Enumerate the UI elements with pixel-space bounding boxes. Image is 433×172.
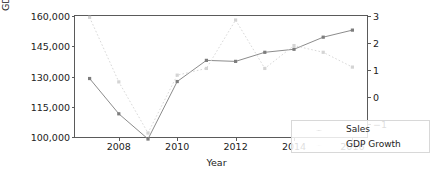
data-point xyxy=(292,44,295,47)
y-tick-label-right: 0 xyxy=(373,91,379,102)
x-tick-label: 2008 xyxy=(107,141,131,152)
y-tick-mark-left xyxy=(72,77,76,78)
data-point xyxy=(234,18,237,21)
data-point xyxy=(263,67,266,70)
y-tick-mark-right xyxy=(367,16,371,17)
y-tick-label-left: 100,000 xyxy=(31,132,70,143)
chart-svg xyxy=(75,16,367,137)
data-point xyxy=(146,131,149,134)
data-point xyxy=(263,51,266,54)
plot-area: 100,000115,000130,000145,000160,000−1012… xyxy=(74,15,368,138)
y-axis-label-right: GDP Growth xyxy=(0,0,11,11)
legend-label-gdp-growth: GDP Growth xyxy=(346,139,401,149)
y-tick-label-left: 160,000 xyxy=(31,11,70,22)
data-point xyxy=(205,59,208,62)
data-point xyxy=(88,77,91,80)
data-point xyxy=(322,51,325,54)
series-line-gdp-growth xyxy=(90,17,353,133)
x-tick-label: 2010 xyxy=(165,141,189,152)
data-point xyxy=(88,16,91,19)
x-tick-mark xyxy=(177,137,178,141)
y-tick-mark-left xyxy=(72,46,76,47)
y-tick-mark-left xyxy=(72,107,76,108)
data-point xyxy=(146,137,149,140)
x-tick-label: 2012 xyxy=(224,141,248,152)
data-point xyxy=(117,112,120,115)
legend-item-sales: Sales xyxy=(292,123,431,138)
data-point xyxy=(322,36,325,39)
legend-item-gdp-growth: GDP Growth xyxy=(292,138,431,153)
y-tick-mark-left xyxy=(72,16,76,17)
legend-line-gdp-growth xyxy=(298,145,340,146)
y-tick-label-left: 130,000 xyxy=(31,71,70,82)
chart-figure: Sales GDP Growth Year 100,000115,000130,… xyxy=(0,0,433,172)
data-point xyxy=(117,80,120,83)
legend-label-sales: Sales xyxy=(346,124,370,134)
data-point xyxy=(292,48,295,51)
x-axis-label: Year xyxy=(0,157,433,168)
x-tick-mark xyxy=(236,137,237,141)
y-tick-mark-left xyxy=(72,137,76,138)
data-point xyxy=(234,60,237,63)
data-point xyxy=(176,74,179,77)
x-tick-mark xyxy=(119,137,120,141)
y-tick-label-right: 2 xyxy=(373,37,379,48)
y-tick-mark-right xyxy=(367,70,371,71)
y-tick-label-left: 115,000 xyxy=(31,101,70,112)
y-tick-mark-right xyxy=(367,43,371,44)
y-tick-mark-right xyxy=(367,97,371,98)
data-point xyxy=(205,67,208,70)
y-tick-label-right: 3 xyxy=(373,11,379,22)
data-point xyxy=(176,80,179,83)
data-point xyxy=(351,65,354,68)
legend-line-sales xyxy=(298,130,340,131)
y-tick-label-left: 145,000 xyxy=(31,41,70,52)
chart-legend: Sales GDP Growth xyxy=(291,120,430,153)
y-tick-label-right: 1 xyxy=(373,64,379,75)
data-point xyxy=(351,29,354,32)
